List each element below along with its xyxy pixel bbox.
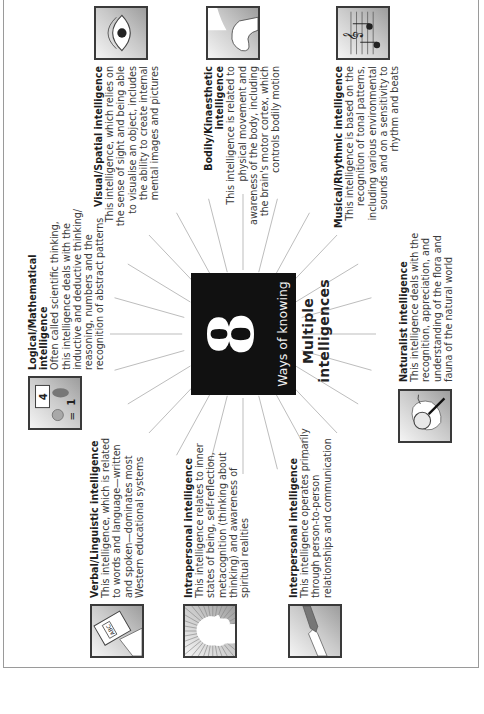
- svg-text:1: 1: [66, 399, 77, 406]
- block-line: states of being, self-reflection,: [205, 418, 216, 598]
- center-box: 8 Ways of knowing: [191, 273, 296, 395]
- svg-text:𝄞: 𝄞: [343, 31, 363, 41]
- visual-intelligence-block: Visual/Spatial intelligence This intelli…: [93, 66, 160, 236]
- block-title: Intrapersonal intelligence: [183, 418, 194, 598]
- svg-text:4: 4: [38, 393, 49, 400]
- block-line: the brain's motor cortex, which: [259, 66, 270, 236]
- block-line: recognition, appreciation, and: [420, 202, 431, 382]
- block-line: mental images and pictures: [149, 66, 160, 236]
- handshake-icon: [288, 604, 342, 658]
- block-line: awareness of the body, including: [248, 66, 259, 236]
- block-title: Visual/Spatial intelligence: [93, 66, 104, 236]
- block-line: the sense of sight and being able: [115, 66, 126, 236]
- music-notes-icon: 𝄞: [336, 6, 390, 60]
- center-subtitle: Ways of knowing: [275, 273, 290, 395]
- block-line: to words and language—written: [111, 418, 122, 598]
- block-line: the ability to create internal: [138, 66, 149, 236]
- block-line: fauna of the natural world: [443, 202, 454, 382]
- block-title: Bodily/Kinaesthetic intelligence: [203, 66, 225, 236]
- block-line: including various environmental: [367, 66, 378, 236]
- block-line: This intelligence operates primarily: [299, 408, 310, 598]
- block-title: Interpersonal intelligence: [288, 408, 299, 598]
- head-silhouette-icon: [183, 604, 237, 658]
- block-line: metacognition (thinking about: [217, 418, 228, 598]
- block-line: This intelligence relates to inner: [194, 418, 205, 598]
- musical-intelligence-block: Musical/Rhythmic intelligence This intel…: [333, 66, 400, 236]
- magnifier-leaf-icon: [398, 389, 452, 443]
- block-line: to visualise an object, includes: [127, 66, 138, 236]
- flexed-arm-icon: [206, 6, 260, 60]
- block-line: Western educational systems: [134, 418, 145, 598]
- block-line: recognition of tonal patterns,: [355, 66, 366, 236]
- block-line: sounds and on a sensitivity to: [378, 66, 389, 236]
- naturalist-intelligence-block: Naturalist intelligence This intelligenc…: [398, 202, 454, 382]
- verbal-intelligence-block: Verbal/Linguistic intelligence This inte…: [89, 418, 145, 598]
- block-line: physical movement and: [237, 66, 248, 236]
- svg-text:=: =: [67, 412, 78, 421]
- block-title: Verbal/Linguistic intelligence: [89, 418, 100, 598]
- block-line: This intelligence is related to: [225, 66, 236, 236]
- block-line: Often called scientific thinking,: [49, 200, 60, 370]
- block-line: thinking) and awareness of: [228, 418, 239, 598]
- block-line: relationships and communication: [322, 408, 333, 598]
- block-line: understanding of the flora and: [432, 202, 443, 382]
- number-eight: 8: [201, 273, 263, 395]
- diagram-canvas: 8 Ways of knowing Multiple intelligences…: [0, 0, 484, 714]
- block-line: controls bodily motion: [270, 66, 281, 236]
- numbers-shapes-icon: 4 = 1: [28, 376, 82, 430]
- bodily-intelligence-block: Bodily/Kinaesthetic intelligence This in…: [203, 66, 281, 236]
- block-title: Musical/Rhythmic intelligence: [333, 66, 344, 236]
- block-line: spiritual realities: [239, 418, 250, 598]
- block-line: and spoken—dominates most: [123, 418, 134, 598]
- block-title: Naturalist intelligence: [398, 202, 409, 382]
- block-line: This intelligence deals with the: [409, 202, 420, 382]
- block-line: this intelligence deals with the: [61, 200, 72, 370]
- eye-icon: [94, 6, 148, 60]
- block-line: inductive and deductive thinking/: [72, 200, 83, 370]
- block-line: This intelligence, which is related: [100, 418, 111, 598]
- block-line: This intelligence, which relies on: [104, 66, 115, 236]
- book-abc-icon: ABC: [90, 604, 144, 658]
- block-title: Logical/Mathematical intelligence: [27, 200, 49, 370]
- interpersonal-intelligence-block: Interpersonal intelligence This intellig…: [288, 408, 333, 598]
- intrapersonal-intelligence-block: Intrapersonal intelligence This intellig…: [183, 418, 250, 598]
- diagram-title: Multiple intelligences: [300, 261, 332, 401]
- block-line: This intelligence is based on the: [344, 66, 355, 236]
- block-line: through person-to-person: [310, 408, 321, 598]
